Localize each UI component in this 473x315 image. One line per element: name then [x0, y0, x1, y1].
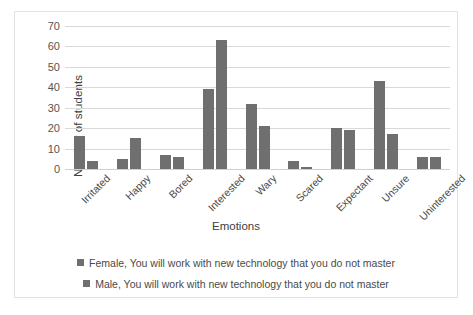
- x-axis-category-cell: Expectant: [322, 170, 365, 220]
- bar[interactable]: [387, 134, 398, 169]
- y-axis-tick-label: 70: [48, 20, 60, 32]
- y-axis-tick-label: 0: [54, 163, 60, 175]
- x-axis-category-label: Bored: [166, 172, 194, 200]
- y-axis-tick-label: 50: [48, 61, 60, 73]
- bar-group: [151, 26, 194, 169]
- legend-swatch-icon: [83, 280, 90, 287]
- x-axis-category-label: Wary: [253, 172, 279, 198]
- bar[interactable]: [417, 157, 428, 169]
- x-axis-category-label: Scared: [293, 172, 325, 204]
- bar-group: [279, 26, 322, 169]
- bar[interactable]: [160, 155, 171, 169]
- bar[interactable]: [259, 126, 270, 169]
- chart-legend: Female, You will work with new technolog…: [15, 252, 457, 294]
- bar[interactable]: [74, 136, 85, 169]
- x-axis-category-label: Happy: [123, 172, 153, 202]
- y-axis-tick-label: 10: [48, 143, 60, 155]
- y-axis-tick-label: 20: [48, 122, 60, 134]
- bar[interactable]: [246, 104, 257, 169]
- bar[interactable]: [430, 157, 441, 169]
- x-axis-category-cell: Uninterested: [407, 170, 450, 220]
- chart-container: Number of students 010203040506070 Irrit…: [14, 11, 458, 298]
- bar-group: [364, 26, 407, 169]
- bar-group: [108, 26, 151, 169]
- plot-wrapper: 010203040506070: [65, 26, 450, 169]
- x-axis-category-cell: Interested: [193, 170, 236, 220]
- bar-group: [407, 26, 450, 169]
- bar-group: [65, 26, 108, 169]
- bar[interactable]: [288, 161, 299, 169]
- bar[interactable]: [216, 40, 227, 169]
- bar-group: [322, 26, 365, 169]
- bar[interactable]: [117, 159, 128, 169]
- legend-item[interactable]: Male, You will work with new technology …: [15, 273, 457, 294]
- bar[interactable]: [374, 81, 385, 169]
- bar[interactable]: [173, 157, 184, 169]
- bar[interactable]: [331, 128, 342, 169]
- bar-groups: [65, 26, 450, 169]
- x-axis-category-cell: Unsure: [364, 170, 407, 220]
- y-axis-tick-label: 30: [48, 102, 60, 114]
- x-axis-category-label: Uninterested: [416, 172, 467, 223]
- x-axis-title: Emotions: [15, 220, 457, 232]
- x-axis-category-cell: Bored: [151, 170, 194, 220]
- bar-group: [193, 26, 236, 169]
- bar-group: [236, 26, 279, 169]
- y-axis-tick-label: 60: [48, 40, 60, 52]
- bar[interactable]: [344, 130, 355, 169]
- y-axis-tick-label: 40: [48, 81, 60, 93]
- legend-item[interactable]: Female, You will work with new technolog…: [15, 252, 457, 273]
- x-axis-category-cell: Wary: [236, 170, 279, 220]
- bar[interactable]: [87, 161, 98, 169]
- bar[interactable]: [301, 167, 312, 169]
- x-axis-category-labels: IrritatedHappyBoredInterestedWaryScaredE…: [65, 170, 450, 220]
- x-axis-category-cell: Irritated: [65, 170, 108, 220]
- x-axis-category-cell: Happy: [108, 170, 151, 220]
- legend-label: Male, You will work with new technology …: [95, 278, 389, 290]
- legend-swatch-icon: [77, 259, 84, 266]
- plot-area: 010203040506070: [65, 26, 450, 169]
- x-axis-category-cell: Scared: [279, 170, 322, 220]
- bar[interactable]: [130, 138, 141, 169]
- legend-label: Female, You will work with new technolog…: [89, 257, 395, 269]
- bar[interactable]: [203, 89, 214, 169]
